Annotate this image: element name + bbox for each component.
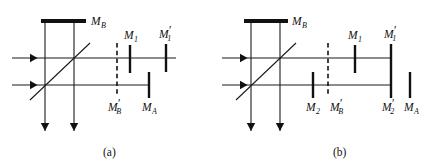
label-mirror-M2: M2	[305, 101, 320, 116]
right-output-beam-arrowhead-icon	[70, 123, 78, 131]
panel-caption-b: (b)	[333, 146, 347, 159]
lower-input-beam-arrowhead-icon	[30, 81, 38, 89]
label-mirror-MB-prime: M′B	[329, 97, 343, 116]
label-mirror-M1-prime: M′1	[158, 24, 171, 43]
panel-caption-a: (a)	[103, 146, 116, 159]
interferometer-diagram-svg: MBM′BM1M′1MA(a) MBM2M′BM1M′1M′2MA(b)	[0, 0, 434, 166]
optics-figure: MBM′BM1M′1MA(a) MBM2M′BM1M′1M′2MA(b)	[0, 0, 434, 166]
label-mirror-MB: MB	[90, 15, 106, 30]
left-output-beam-arrowhead-icon	[247, 123, 255, 131]
beamsplitter	[30, 43, 90, 100]
panel-b: MBM2M′BM1M′1M′2MA(b)	[222, 15, 419, 159]
left-output-beam-arrowhead-icon	[41, 123, 49, 131]
upper-input-beam-arrowhead-icon	[240, 54, 248, 62]
label-mirror-MB-prime: M′B	[107, 97, 121, 116]
label-mirror-MB: MB	[291, 15, 307, 30]
label-mirror-M2-prime: M′2	[381, 97, 394, 116]
label-mirror-M1: M1	[347, 29, 362, 44]
lower-input-beam-arrowhead-icon	[240, 81, 248, 89]
label-mirror-MA: MA	[403, 101, 419, 116]
right-output-beam-arrowhead-icon	[276, 123, 284, 131]
beamsplitter	[236, 43, 296, 100]
label-mirror-MA: MA	[141, 101, 157, 116]
label-mirror-M1: M1	[123, 29, 138, 44]
panel-a: MBM′BM1M′1MA(a)	[12, 15, 176, 159]
label-mirror-M1-prime: M′1	[383, 24, 396, 43]
upper-input-beam-arrowhead-icon	[30, 54, 38, 62]
